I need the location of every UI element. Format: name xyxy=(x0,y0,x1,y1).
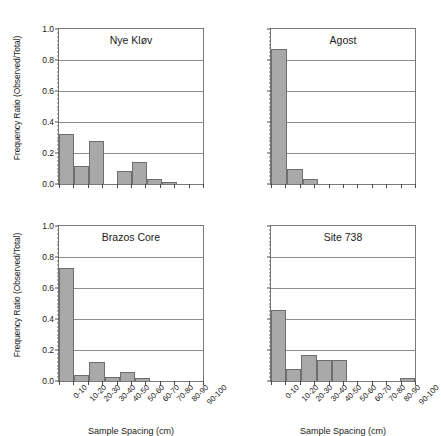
y-axis-tick-label: 0.2 xyxy=(42,345,54,355)
x-axis-tick-label: 90-100 xyxy=(418,383,441,407)
bar[interactable] xyxy=(59,134,74,184)
x-axis-tick xyxy=(117,184,118,188)
y-axis-tick-label: 0.0 xyxy=(42,376,54,386)
bar[interactable] xyxy=(89,141,104,184)
x-axis-tick xyxy=(285,184,286,188)
x-axis-tick xyxy=(189,184,190,188)
bar[interactable] xyxy=(287,169,303,184)
plot-area: 0.00.20.40.60.81.0 xyxy=(58,225,204,382)
bar[interactable] xyxy=(301,355,316,381)
x-axis-tick xyxy=(415,184,416,188)
panel-agost: Agost xyxy=(212,10,424,207)
plot-area xyxy=(270,225,416,382)
y-axis-tick-label: 0.4 xyxy=(42,314,54,324)
bar[interactable] xyxy=(132,162,147,184)
x-axis-tick xyxy=(343,184,344,188)
plot-area: 0.00.20.40.60.81.0 xyxy=(58,28,204,185)
x-axis-title: Sample Spacing (cm) xyxy=(58,426,204,436)
x-axis-title: Sample Spacing (cm) xyxy=(270,426,416,436)
y-axis-tick-label: 1.0 xyxy=(42,24,54,34)
bar[interactable] xyxy=(332,360,347,381)
x-tick-labels: 0-1010-2020-3030-4040-5050-6060-7070-808… xyxy=(58,383,204,423)
plot-area xyxy=(270,28,416,185)
x-tick-labels: 0-1010-2020-3030-4040-5050-6060-7070-808… xyxy=(270,383,416,423)
bar[interactable] xyxy=(271,49,287,184)
x-axis-tick xyxy=(357,184,358,188)
y-axis-title: Frequency Ratio (Observed/Total) xyxy=(10,10,24,185)
y-axis-tick-label: 0.0 xyxy=(42,179,54,189)
x-axis-tick xyxy=(271,184,272,188)
x-axis-tick xyxy=(145,184,146,188)
y-axis-title: Frequency Ratio (Observed/Total) xyxy=(10,207,24,382)
x-axis-tick xyxy=(386,184,387,188)
bar[interactable] xyxy=(117,171,132,184)
bar[interactable] xyxy=(400,378,415,381)
y-axis-tick-label: 0.4 xyxy=(42,117,54,127)
bar-series xyxy=(271,226,415,381)
y-axis-tick-label: 0.6 xyxy=(42,86,54,96)
y-axis-tick-label: 0.2 xyxy=(42,148,54,158)
x-axis-tick-label: 0-10 xyxy=(72,383,89,400)
bar[interactable] xyxy=(120,372,135,381)
bar-series xyxy=(59,29,203,184)
bar[interactable] xyxy=(317,360,332,381)
x-axis-tick xyxy=(102,184,103,188)
x-axis-tick xyxy=(131,184,132,188)
panel-brazos-core: Frequency Ratio (Observed/Total) 0.00.20… xyxy=(0,207,212,404)
y-axis-tick-label: 0.8 xyxy=(42,55,54,65)
x-axis-tick-label: 0-10 xyxy=(284,383,301,400)
y-axis-tick-label: 0.6 xyxy=(42,283,54,293)
x-axis-tick xyxy=(59,184,60,188)
bar[interactable] xyxy=(286,369,301,381)
bar-series xyxy=(271,29,415,184)
x-axis-tick xyxy=(300,184,301,188)
bar[interactable] xyxy=(271,310,286,381)
bar-series xyxy=(59,226,203,381)
x-axis-tick xyxy=(174,184,175,188)
x-axis-tick xyxy=(88,184,89,188)
y-axis-tick-label: 1.0 xyxy=(42,221,54,231)
panel-nye-klov: Frequency Ratio (Observed/Total) 0.00.20… xyxy=(0,10,212,207)
x-axis-tick xyxy=(160,184,161,188)
bar[interactable] xyxy=(135,378,150,381)
y-axis-tick-label: 0.8 xyxy=(42,252,54,262)
x-axis-tick xyxy=(314,184,315,188)
x-axis-tick xyxy=(329,184,330,188)
x-axis-tick xyxy=(401,184,402,188)
bar[interactable] xyxy=(89,362,104,381)
x-axis-tick xyxy=(203,184,204,188)
bar[interactable] xyxy=(59,268,74,381)
x-axis-tick xyxy=(372,184,373,188)
bar[interactable] xyxy=(74,166,89,184)
x-axis-tick xyxy=(73,184,74,188)
panel-site-738: Site 738 0-1010-2020-3030-4040-5050-6060… xyxy=(212,207,424,404)
bar[interactable] xyxy=(303,179,319,184)
